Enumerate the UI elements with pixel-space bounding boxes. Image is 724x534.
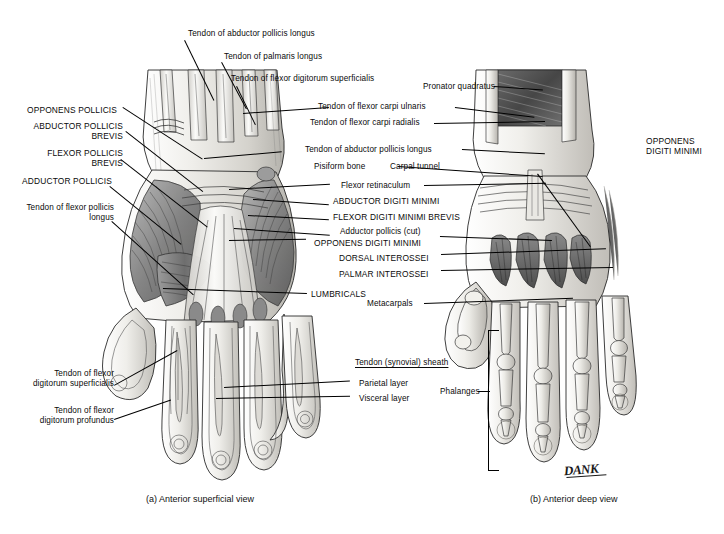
- label-flexor-digiti-minimi-brevis: FLEXOR DIGITI MINIMI BREVIS: [333, 212, 460, 222]
- phalanges-bracket: [488, 330, 499, 471]
- label-opponens-digiti-minimi-right: OPPONENS DIGITI MINIMI: [646, 136, 710, 156]
- label-dorsal-interossei: DORSAL INTEROSSEI: [339, 253, 429, 263]
- label-lumbricals: LUMBRICALS: [311, 289, 366, 299]
- label-tendon-flexor-pollicis-longus: Tendon of flexor pollicis longus: [22, 203, 114, 223]
- label-tendon-flexor-digitorum-superficialis-top: Tendon of flexor digitorum superficialis: [231, 74, 374, 84]
- label-adductor-pollicis-cut: Adductor pollicis (cut): [340, 227, 421, 237]
- label-tendon-flexor-digitorum-profundus: Tendon of flexor digitorum profundus: [32, 406, 114, 426]
- caption-b: (b) Anterior deep view: [530, 494, 618, 504]
- label-palmar-interossei: PALMAR INTEROSSEI: [339, 269, 428, 279]
- label-tendon-synovial-sheath-heading: Tendon (synovial) sheath: [355, 358, 448, 368]
- hand-illustration-anterior-superficial: [92, 70, 352, 485]
- label-tendon-flexor-digitorum-superficialis: Tendon of flexor digitorum superficialis: [32, 369, 114, 389]
- label-visceral-layer: Visceral layer: [359, 394, 409, 404]
- label-tendon-flexor-carpi-ulnaris: Tendon of flexor carpi ulnaris: [318, 102, 426, 112]
- label-pisiform-bone: Pisiform bone: [314, 162, 365, 172]
- label-flexor-retinaculum: Flexor retinaculum: [341, 181, 410, 191]
- label-tendon-abductor-pollicis-longus-top: Tendon of abductor pollicis longus: [188, 29, 315, 39]
- label-metacarpals: Metacarpals: [367, 299, 413, 309]
- label-carpal-tunnel: Carpal tunnel: [390, 162, 440, 172]
- label-parietal-layer: Parietal layer: [359, 379, 408, 389]
- artist-signature: DANK: [563, 461, 598, 479]
- label-tendon-flexor-carpi-radialis: Tendon of flexor carpi radialis: [310, 118, 420, 128]
- leader-line: [478, 391, 490, 392]
- hand-illustration-anterior-deep: [436, 70, 656, 485]
- label-opponens-digiti-minimi-center: OPPONENS DIGITI MINIMI: [314, 238, 421, 248]
- label-tendon-abductor-pollicis-longus: Tendon of abductor pollicis longus: [305, 145, 432, 155]
- label-abductor-digiti-minimi: ABDUCTOR DIGITI MINIMI: [333, 196, 439, 206]
- label-tendon-palmaris-longus: Tendon of palmaris longus: [224, 52, 322, 62]
- label-flexor-pollicis-brevis: FLEXOR POLLICIS BREVIS: [20, 148, 123, 168]
- label-adductor-pollicis: ADDUCTOR POLLICIS: [22, 176, 112, 186]
- caption-a: (a) Anterior superficial view: [146, 494, 254, 504]
- anatomy-figure: Tendon of abductor pollicis longus Tendo…: [0, 0, 724, 534]
- label-pronator-quadratus: Pronator quadratus: [423, 82, 495, 92]
- label-opponens-pollicis: OPPONENS POLLICIS: [27, 105, 117, 115]
- label-abductor-pollicis-brevis: ABDUCTOR POLLICIS BREVIS: [18, 121, 123, 141]
- label-phalanges: Phalanges: [440, 387, 480, 397]
